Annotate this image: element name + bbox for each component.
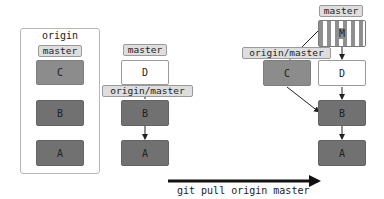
local-commit-a: A [121, 140, 169, 166]
commit-label: D [339, 68, 345, 79]
local-commit-d: D [121, 60, 169, 85]
origin-title: origin [20, 30, 100, 42]
local-commit-b: B [121, 100, 169, 126]
merge-commit-m: M [318, 20, 366, 47]
origin-master-label: master [38, 45, 82, 57]
local-master-label: master [123, 44, 167, 56]
commit-label: A [142, 148, 148, 159]
commit-label: M [338, 28, 346, 39]
commit-label: A [339, 148, 345, 159]
origin-commit-c: C [36, 60, 84, 85]
commit-label: C [57, 67, 63, 78]
after-commit-b: B [318, 100, 366, 126]
origin-commit-b: B [36, 100, 84, 126]
origin-commit-a: A [36, 140, 84, 166]
command-caption: git pull origin master [177, 185, 309, 197]
after-commit-a: A [318, 140, 366, 166]
after-origin-master-label: origin/master [242, 47, 331, 59]
local-origin-master-label: origin/master [102, 85, 193, 97]
arrow-c-to-b-after [287, 87, 319, 112]
after-master-label: master [319, 5, 363, 17]
commit-label: B [339, 108, 345, 119]
commit-label: B [142, 108, 148, 119]
commit-label: A [57, 148, 63, 159]
commit-label: C [284, 68, 290, 79]
after-commit-d: D [318, 60, 366, 86]
commit-label: D [142, 67, 148, 78]
commit-label: B [57, 108, 63, 119]
after-commit-c: C [263, 60, 311, 86]
